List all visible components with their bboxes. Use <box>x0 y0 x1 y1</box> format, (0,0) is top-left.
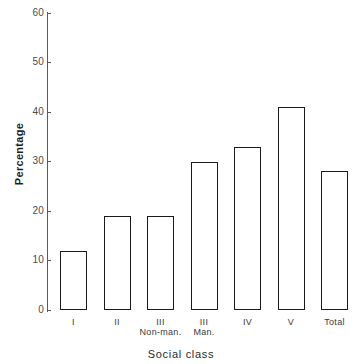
bar-II <box>104 216 131 310</box>
plot-area: I II III Non-man. III Man. IV V Total <box>0 0 362 364</box>
bar-V <box>278 107 305 310</box>
bar-III-man <box>191 162 218 311</box>
bar-Total <box>321 171 348 310</box>
bar-IV <box>234 147 261 310</box>
x-axis-title: Social class <box>0 348 362 360</box>
bar-chart: Percentage 60 50 40 30 20 10 0 I II III … <box>0 0 362 364</box>
bar-I <box>60 251 87 310</box>
bar-III-non-man <box>147 216 174 310</box>
x-tick-label-Total: Total <box>309 318 360 328</box>
